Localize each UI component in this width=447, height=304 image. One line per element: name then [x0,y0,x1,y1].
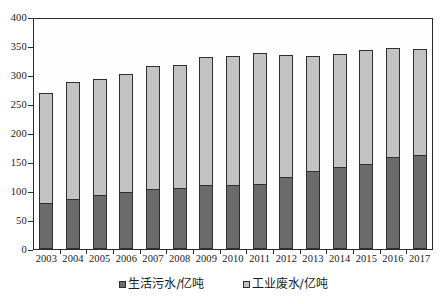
bar-segment-industrial-wastewater [119,74,133,193]
y-tick-label: 400 [11,13,27,23]
bar-segment-domestic-sewage [173,188,187,249]
bar-segment-domestic-sewage [199,185,213,249]
bar-segment-industrial-wastewater [279,55,293,178]
y-tick-mark [28,250,33,251]
bar-segment-industrial-wastewater [359,50,373,165]
x-tick-label-2015: 2015 [353,253,380,265]
bar-segment-domestic-sewage [146,189,160,249]
x-tick-label-2017: 2017 [406,253,433,265]
bar-segment-industrial-wastewater [199,57,213,186]
bar-segment-domestic-sewage [359,164,373,249]
legend-label: 工业废水/亿吨 [252,277,328,291]
bar-segment-industrial-wastewater [226,56,240,186]
x-tick-label-2012: 2012 [273,253,300,265]
bar-segment-domestic-sewage [253,184,267,249]
chart-legend: 生活污水/亿吨工业废水/亿吨 [0,274,447,294]
legend-label: 生活污水/亿吨 [128,277,204,291]
bar-segment-domestic-sewage [93,195,107,249]
x-tick-label-2016: 2016 [380,253,407,265]
bar-segment-industrial-wastewater [413,49,427,156]
plot-area [33,18,433,250]
x-tick-label-2013: 2013 [300,253,327,265]
legend-item-industrial-wastewater[interactable]: 工业废水/亿吨 [243,277,328,291]
bar-segment-domestic-sewage [66,199,80,249]
x-tick-label-2010: 2010 [220,253,247,265]
square-marker-icon [119,281,126,288]
y-tick-label: 200 [11,129,27,139]
y-tick-label: 100 [11,187,27,197]
bar-segment-domestic-sewage [386,157,400,249]
bar-segment-domestic-sewage [413,155,427,249]
bar-segment-industrial-wastewater [333,54,347,168]
y-tick-label: 50 [16,216,27,226]
x-tick-label-2009: 2009 [193,253,220,265]
bar-segment-industrial-wastewater [306,56,320,172]
bar-segment-industrial-wastewater [39,93,53,204]
x-tick-label-2006: 2006 [113,253,140,265]
bar-segment-domestic-sewage [306,171,320,249]
x-tick-label-2011: 2011 [246,253,273,265]
bar-segment-industrial-wastewater [66,82,80,200]
bar-segment-industrial-wastewater [386,48,400,158]
bar-segment-industrial-wastewater [253,53,267,185]
legend-item-domestic-sewage[interactable]: 生活污水/亿吨 [119,277,204,291]
bar-segment-industrial-wastewater [173,65,187,189]
bar-segment-domestic-sewage [119,192,133,249]
x-axis: 2003200420052006200720082009201020112012… [33,253,433,269]
bar-segment-domestic-sewage [279,177,293,249]
y-tick-label: 0 [22,245,27,255]
x-tick-label-2014: 2014 [326,253,353,265]
y-axis: 050100150200250300350400 [0,0,33,260]
bar-segment-industrial-wastewater [146,66,160,190]
bar-segment-industrial-wastewater [93,79,107,196]
x-tick-label-2004: 2004 [60,253,87,265]
x-tick-label-2008: 2008 [166,253,193,265]
stacked-bar-chart-figure: 050100150200250300350400 200320042005200… [0,0,447,304]
y-tick-label: 150 [11,158,27,168]
x-tick-label-2007: 2007 [140,253,167,265]
y-tick-label: 250 [11,100,27,110]
bar-segment-domestic-sewage [333,167,347,249]
bar-segment-domestic-sewage [39,203,53,249]
y-tick-label: 300 [11,71,27,81]
x-tick-label-2003: 2003 [33,253,60,265]
y-tick-label: 350 [11,42,27,52]
bar-segment-domestic-sewage [226,185,240,249]
x-tick-label-2005: 2005 [86,253,113,265]
square-marker-icon [243,281,250,288]
